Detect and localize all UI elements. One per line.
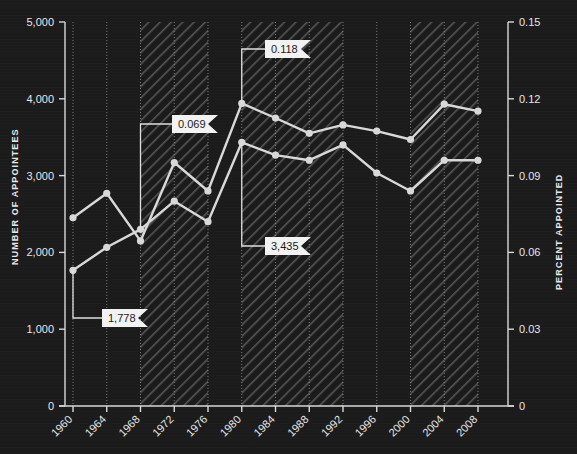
annotation-leader-line bbox=[73, 270, 102, 318]
y-tick-label: 3,000 bbox=[26, 170, 54, 182]
x-tick-label: 2008 bbox=[454, 413, 480, 439]
annotation-label: 0.069 bbox=[178, 118, 206, 130]
y-tick-label: 0 bbox=[48, 400, 54, 412]
x-tick-label: 2000 bbox=[386, 413, 412, 439]
data-point bbox=[204, 218, 211, 225]
data-point bbox=[407, 187, 414, 194]
data-point bbox=[204, 187, 211, 194]
y-tick-label: 5,000 bbox=[26, 16, 54, 28]
data-point bbox=[171, 198, 178, 205]
x-tick-label: 1980 bbox=[217, 413, 243, 439]
data-point bbox=[373, 169, 380, 176]
data-point bbox=[441, 157, 448, 164]
x-tick-label: 1988 bbox=[285, 413, 311, 439]
data-point bbox=[171, 159, 178, 166]
x-tick-label: 1984 bbox=[251, 413, 277, 439]
chart-canvas: 01,0002,0003,0004,0005,000 00.030.060.09… bbox=[0, 0, 577, 454]
y-axis-title: NUMBER OF APPOINTEES bbox=[10, 128, 20, 265]
annotation-label: 3,435 bbox=[271, 240, 299, 252]
data-point bbox=[339, 121, 346, 128]
x-tick-label: 1976 bbox=[184, 413, 210, 439]
data-point bbox=[103, 244, 110, 251]
x-tick-label: 1968 bbox=[116, 413, 142, 439]
y2-tick-label: 0.09 bbox=[519, 170, 540, 182]
y2-tick-label: 0.12 bbox=[519, 93, 540, 105]
y2-tick-label: 0.06 bbox=[519, 246, 540, 258]
x-tick-label: 1960 bbox=[49, 413, 75, 439]
data-point bbox=[272, 152, 279, 159]
data-point bbox=[103, 190, 110, 197]
x-tick-label: 2004 bbox=[420, 413, 446, 439]
data-point bbox=[474, 107, 481, 114]
data-point bbox=[272, 114, 279, 121]
line-chart: 01,0002,0003,0004,0005,000 00.030.060.09… bbox=[0, 0, 577, 454]
annotation-label: 1,778 bbox=[108, 312, 136, 324]
data-point bbox=[407, 136, 414, 143]
y2-tick-label: 0.03 bbox=[519, 323, 540, 335]
left-axis: 01,0002,0003,0004,0005,000 bbox=[26, 16, 65, 412]
data-point bbox=[441, 101, 448, 108]
data-point bbox=[474, 157, 481, 164]
y2-axis-title: PERCENT APPOINTED bbox=[554, 174, 564, 290]
data-point bbox=[339, 141, 346, 148]
x-tick-label: 1992 bbox=[319, 413, 345, 439]
x-tick-label: 1996 bbox=[352, 413, 378, 439]
y-tick-label: 4,000 bbox=[26, 93, 54, 105]
y2-tick-label: 0 bbox=[519, 400, 525, 412]
x-tick-label: 1972 bbox=[150, 413, 176, 439]
data-point bbox=[137, 237, 144, 244]
right-axis: 00.030.060.090.120.15 bbox=[508, 16, 540, 412]
annotation-label: 0.118 bbox=[271, 43, 298, 55]
x-tick-label: 1964 bbox=[82, 413, 108, 439]
y2-tick-label: 0.15 bbox=[519, 16, 540, 28]
x-axis: 1960196419681972197619801984198819921996… bbox=[49, 406, 514, 439]
data-point bbox=[69, 214, 76, 221]
shaded-band bbox=[242, 22, 343, 406]
data-point bbox=[306, 130, 313, 137]
y-tick-label: 1,000 bbox=[26, 323, 54, 335]
data-point bbox=[306, 157, 313, 164]
y-tick-label: 2,000 bbox=[26, 246, 54, 258]
data-point bbox=[373, 127, 380, 134]
